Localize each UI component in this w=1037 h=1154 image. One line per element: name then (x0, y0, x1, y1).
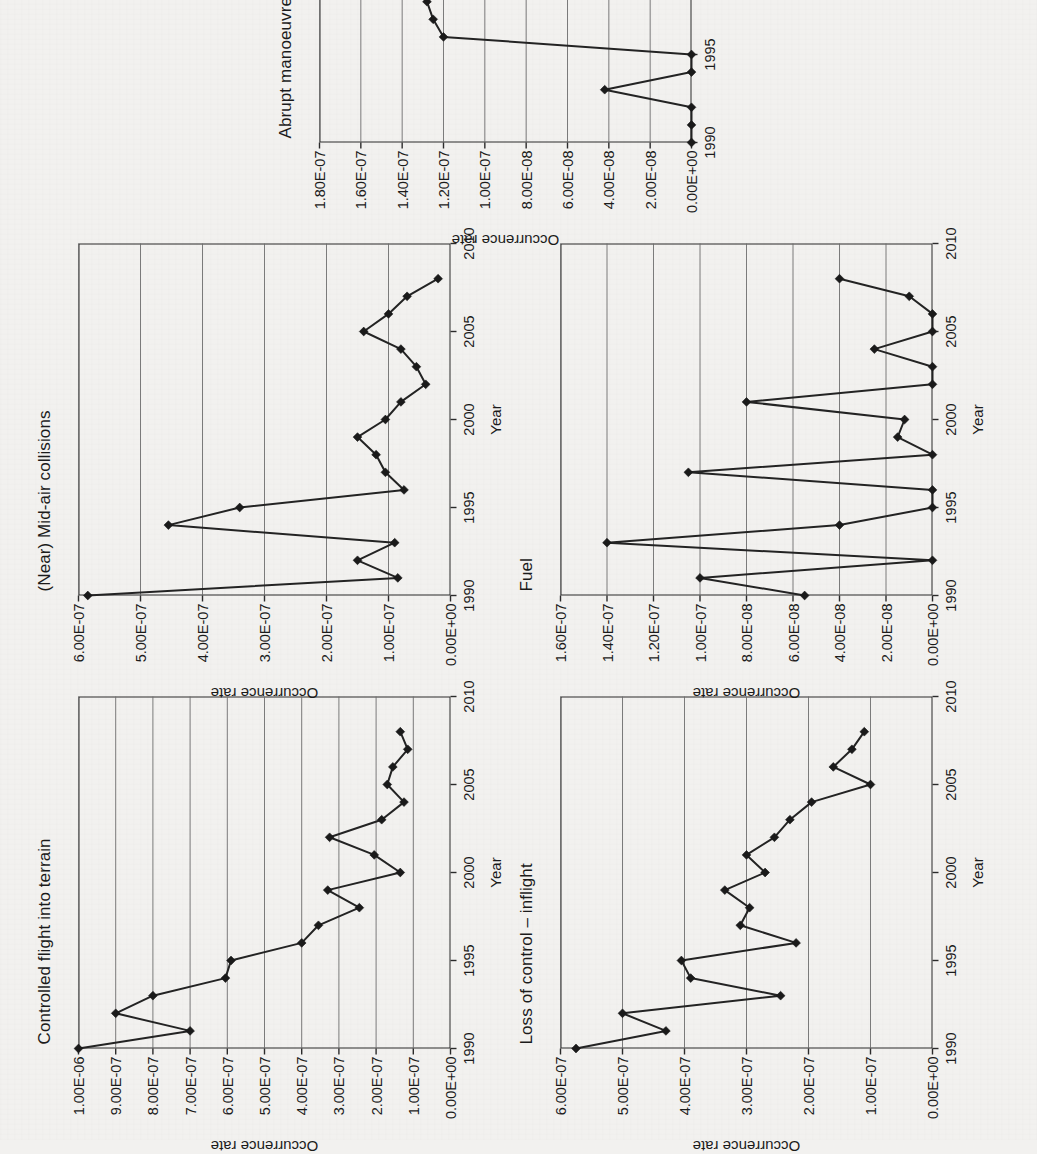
x-tick-label: 2005 (460, 768, 476, 800)
data-point-marker (866, 780, 875, 789)
data-point-marker (325, 832, 334, 841)
data-point-marker (602, 538, 611, 547)
plot-svg-abrupt (319, 0, 691, 142)
data-point-marker (683, 467, 692, 476)
plot-svg-fuel (560, 243, 932, 595)
y-tick-label: 1.00E-07 (476, 150, 492, 234)
data-point-marker (395, 727, 404, 736)
data-point-marker (111, 1008, 120, 1017)
panel-title-fuel: Fuel (516, 558, 536, 591)
y-tick-label: 1.40E-07 (394, 150, 410, 234)
data-point-marker (687, 138, 696, 147)
y-tick-label: 2.00E-07 (318, 603, 334, 687)
x-axis-label-abrupt: Year (727, 0, 744, 142)
data-point-marker (353, 555, 362, 564)
y-tick-label: 0.00E+00 (442, 603, 458, 687)
y-tick-label: 0.00E+00 (442, 1056, 458, 1140)
data-point-marker (377, 815, 386, 824)
y-axis-label-fuel: Occurrence rate (560, 684, 932, 701)
y-tick-label: 0.00E+00 (924, 603, 940, 687)
x-tick-label: 2005 (942, 315, 958, 347)
series-line-abrupt (360, 0, 691, 142)
data-point-marker (185, 1026, 194, 1035)
data-point-marker (859, 727, 868, 736)
y-tick-label: 1.00E-07 (380, 603, 396, 687)
y-tick-label: 4.00E-08 (831, 603, 847, 687)
y-tick-label: 9.00E-07 (107, 1056, 123, 1140)
data-point-marker (403, 744, 412, 753)
y-tick-label: 2.00E-08 (878, 603, 894, 687)
y-tick-label: 1.20E-07 (645, 603, 661, 687)
panel-title-midair: (Near) Mid-air collisions (34, 410, 54, 591)
y-tick-label: 1.40E-07 (599, 603, 615, 687)
data-point-marker (776, 991, 785, 1000)
x-tick-label: 1990 (460, 579, 476, 611)
y-tick-label: 4.00E-07 (293, 1056, 309, 1140)
y-tick-label: 6.00E-07 (219, 1056, 235, 1140)
data-point-marker (800, 591, 809, 600)
y-tick-label: 3.00E-07 (738, 1056, 754, 1140)
x-tick-label: 2000 (942, 403, 958, 435)
y-tick-label: 3.00E-07 (330, 1056, 346, 1140)
y-tick-label: 1.00E-06 (70, 1056, 86, 1140)
x-tick-label: 1995 (460, 491, 476, 523)
data-point-marker (742, 397, 751, 406)
x-tick-label: 2005 (942, 768, 958, 800)
data-point-marker (600, 85, 609, 94)
series-line-cfit (78, 731, 407, 1048)
y-tick-label: 6.00E-08 (559, 150, 575, 234)
y-tick-label: 1.60E-07 (552, 603, 568, 687)
x-tick-label: 2005 (460, 315, 476, 347)
data-point-marker (661, 1026, 670, 1035)
data-point-marker (928, 362, 937, 371)
data-point-marker (439, 32, 448, 41)
y-tick-label: 1.80E-07 (311, 150, 327, 234)
y-tick-label: 8.00E-08 (738, 603, 754, 687)
x-tick-label: 2000 (942, 856, 958, 888)
plot-area-fuel (560, 243, 932, 595)
x-tick-label: 1990 (701, 126, 717, 158)
panel-midair: (Near) Mid-air collisions0.00E+001.00E-0… (0, 195, 482, 687)
y-tick-label: 1.20E-07 (435, 150, 451, 234)
panel-fuel: Fuel0.00E+002.00E-084.00E-086.00E-088.00… (482, 195, 964, 687)
x-tick-label: 1995 (942, 491, 958, 523)
data-point-marker (359, 327, 368, 336)
data-point-marker (686, 973, 695, 982)
data-point-marker (74, 1044, 83, 1053)
plot-svg-loc_i (560, 696, 932, 1048)
x-tick-label: 2010 (942, 227, 958, 259)
x-tick-label: 1995 (942, 944, 958, 976)
y-axis-label-loc_i: Occurrence rate (560, 1137, 932, 1154)
x-tick-label: 2000 (460, 856, 476, 888)
data-point-marker (618, 1008, 627, 1017)
data-point-marker (928, 450, 937, 459)
y-tick-label: 5.00E-07 (132, 603, 148, 687)
data-point-marker (928, 379, 937, 388)
data-point-marker (928, 327, 937, 336)
data-point-marker (687, 50, 696, 59)
data-point-marker (695, 573, 704, 582)
y-tick-label: 2.00E-07 (368, 1056, 384, 1140)
x-tick-label: 1990 (942, 579, 958, 611)
data-point-marker (164, 520, 173, 529)
data-point-marker (835, 274, 844, 283)
plot-area-abrupt (319, 0, 691, 142)
panel-title-abrupt: Abrupt manoeuvre (275, 0, 295, 138)
series-line-midair (87, 278, 437, 595)
y-tick-label: 3.00E-07 (256, 603, 272, 687)
data-point-marker (235, 503, 244, 512)
y-tick-label: 5.00E-07 (614, 1056, 630, 1140)
data-point-marker (791, 938, 800, 947)
x-tick-label: 1995 (701, 38, 717, 70)
y-axis-label-cfit: Occurrence rate (78, 1137, 450, 1154)
data-point-marker (221, 973, 230, 982)
plot-area-cfit (78, 696, 450, 1048)
data-point-marker (422, 0, 431, 6)
panel-loc_i: Loss of control – inflight0.00E+001.00E-… (482, 648, 964, 1140)
data-point-marker (869, 344, 878, 353)
plot-area-loc_i (560, 696, 932, 1048)
panel-title-cfit: Controlled flight into terrain (34, 838, 54, 1044)
y-tick-label: 0.00E+00 (924, 1056, 940, 1140)
y-tick-label: 4.00E-07 (194, 603, 210, 687)
